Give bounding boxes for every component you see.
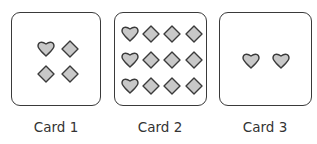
heart-icon — [243, 54, 259, 68]
card-3 — [219, 12, 312, 106]
diamond-icon — [164, 26, 180, 42]
card-1-label: Card 1 — [6, 119, 106, 135]
diamond-icon — [38, 66, 54, 82]
heart-icon — [38, 42, 54, 56]
heart-icon — [122, 27, 138, 41]
diamond-icon — [143, 26, 159, 42]
diamond-icon — [186, 52, 202, 68]
diamond-icon — [62, 41, 78, 57]
diamond-icon — [186, 26, 202, 42]
heart-icon — [122, 53, 138, 67]
heart-icon — [122, 79, 138, 93]
card-3-shapes — [220, 13, 313, 107]
diamond-icon — [164, 78, 180, 94]
diamond-icon — [143, 78, 159, 94]
diamond-icon — [62, 66, 78, 82]
heart-icon — [273, 54, 289, 68]
diamond-icon — [186, 78, 202, 94]
diamond-icon — [143, 52, 159, 68]
card-2-shapes — [115, 13, 208, 107]
card-1-shapes — [12, 13, 102, 107]
card-3-label: Card 3 — [215, 119, 315, 135]
card-2-label: Card 2 — [110, 119, 210, 135]
card-2 — [114, 12, 207, 106]
card-1 — [11, 12, 101, 106]
diamond-icon — [164, 52, 180, 68]
